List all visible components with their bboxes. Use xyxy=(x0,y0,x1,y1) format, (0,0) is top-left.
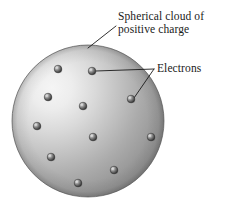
electron-particle xyxy=(74,179,82,187)
electron-highlight xyxy=(76,180,78,182)
electron-body xyxy=(44,93,52,101)
electron-particle xyxy=(147,133,155,141)
leader-line-cloud xyxy=(88,26,116,48)
electron-particle xyxy=(110,166,118,174)
sphere-group xyxy=(12,45,164,197)
electron-body xyxy=(54,65,62,73)
electron-body xyxy=(33,122,41,130)
electron-particle xyxy=(88,67,96,75)
electron-body xyxy=(88,67,96,75)
electron-highlight xyxy=(35,123,37,125)
electron-highlight xyxy=(112,167,114,169)
electron-particle xyxy=(54,65,62,73)
electron-particle xyxy=(79,102,87,110)
label-cloud-line1: Spherical cloud of xyxy=(118,10,204,23)
electron-highlight xyxy=(129,96,131,98)
electron-body xyxy=(79,102,87,110)
electron-body xyxy=(110,166,118,174)
electron-body xyxy=(127,95,135,103)
electron-body xyxy=(89,133,97,141)
label-electrons: Electrons xyxy=(157,62,201,75)
electron-particle xyxy=(47,153,55,161)
label-cloud-line2: positive charge xyxy=(118,23,204,36)
sphere-rim-shading xyxy=(12,45,164,197)
plum-pudding-model-figure: Spherical cloud of positive charge Elect… xyxy=(0,0,228,214)
electron-body xyxy=(74,179,82,187)
electron-highlight xyxy=(46,94,48,96)
electron-particle xyxy=(33,122,41,130)
electron-body xyxy=(47,153,55,161)
electron-particle xyxy=(127,95,135,103)
electron-highlight xyxy=(49,154,51,156)
electron-highlight xyxy=(81,103,83,105)
electron-particle xyxy=(44,93,52,101)
electron-highlight xyxy=(56,66,58,68)
electron-body xyxy=(147,133,155,141)
electron-highlight xyxy=(91,134,93,136)
electron-highlight xyxy=(90,68,92,70)
label-spherical-cloud-of-positive-charge: Spherical cloud of positive charge xyxy=(118,10,204,36)
electron-highlight xyxy=(149,134,151,136)
electron-particle xyxy=(89,133,97,141)
